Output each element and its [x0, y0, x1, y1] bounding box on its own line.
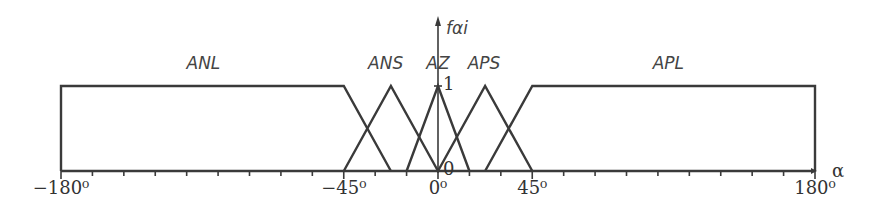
- x-tick-label: 180⁰: [794, 177, 836, 198]
- x-axis-label: α: [832, 160, 844, 181]
- x-tick-label: −180⁰: [33, 177, 90, 198]
- set-label-ans: ANS: [368, 53, 403, 73]
- y-tick-label: 0: [443, 158, 454, 179]
- x-tick-label: 45⁰: [517, 177, 547, 198]
- set-label-az: AZ: [426, 53, 449, 73]
- set-label-anl: ANL: [187, 53, 221, 73]
- set-label-aps: APS: [468, 53, 501, 73]
- x-tick-label: 0⁰: [429, 177, 448, 198]
- membership-apl: [485, 86, 815, 171]
- membership-ans: [344, 86, 438, 171]
- y-tick-label: 1: [443, 73, 454, 94]
- y-axis-label: fαi: [446, 18, 468, 38]
- y-axis-arrow-icon: [435, 16, 441, 26]
- set-label-apl: APL: [653, 53, 684, 73]
- membership-anl: [61, 86, 391, 171]
- axes: [61, 16, 817, 179]
- x-tick-label: −45⁰: [321, 177, 366, 198]
